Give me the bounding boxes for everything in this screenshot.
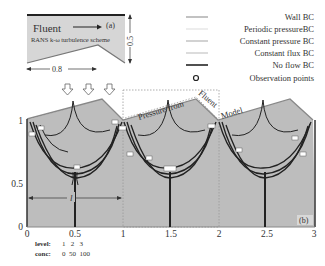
- contour-label: [164, 166, 176, 171]
- dim-arrow-up: [128, 14, 132, 19]
- x-tick: 2.5: [261, 229, 273, 239]
- x-tick: 0.5: [69, 229, 81, 239]
- dim-arrow-right: [92, 67, 97, 71]
- inset-title: Fluent: [33, 22, 61, 34]
- figure: Fluent (a) RANS k-ω turbulence scheme 0.…: [0, 0, 325, 266]
- legend-label: Periodic pressureBC: [244, 24, 314, 34]
- observation-point-icon: [194, 76, 199, 81]
- inset-panel: Fluent (a) RANS k-ω turbulence scheme 0.…: [26, 14, 135, 74]
- conc-values: 0 50 100: [62, 250, 91, 258]
- down-arrow-icon: [104, 84, 115, 95]
- legend-label: Constant pressure BC: [240, 36, 314, 46]
- level-label: level:: [35, 240, 51, 248]
- down-arrow-icon: [83, 84, 94, 95]
- contour-label: [38, 126, 44, 130]
- contour-label: [146, 156, 152, 160]
- x-axis: 0 0.5 1 1.5 2 2.5 3: [25, 229, 317, 239]
- legend-label: No flow BC: [272, 60, 314, 70]
- x-tick: 0: [25, 229, 30, 239]
- contour-label: [112, 120, 118, 124]
- x-tick: 1.5: [165, 229, 177, 239]
- inset-label: (a): [106, 21, 115, 30]
- conc-label: conc:: [35, 250, 51, 258]
- legend-label: Wall BC: [285, 12, 315, 22]
- legend-label: Constant flux BC: [254, 48, 314, 58]
- contour-label: [236, 148, 242, 152]
- contour-label: [292, 136, 298, 140]
- contour-label: [119, 126, 126, 130]
- contour-label: [300, 152, 306, 156]
- dim-arrow-down: [128, 59, 132, 64]
- y-axis: 0 0.5 1: [11, 116, 23, 232]
- flow-down-arrows: [62, 84, 115, 95]
- contour-label: [127, 152, 133, 156]
- x-tick: 2: [217, 229, 222, 239]
- contour-key: level: 1 2 3 conc: 0 50 100: [35, 240, 91, 258]
- y-tick: 0: [18, 222, 23, 232]
- x-tick: 3: [312, 229, 317, 239]
- contour-label: [29, 132, 35, 136]
- y-tick: 0.5: [11, 179, 23, 189]
- y-tick: 1: [18, 116, 23, 126]
- legend: Wall BC Periodic pressureBC Constant pre…: [186, 12, 314, 83]
- inset-width-label: 0.8: [52, 65, 62, 74]
- inset-height-label: 0.5: [126, 36, 135, 46]
- dim-arrow-left: [26, 67, 31, 71]
- contour-label: [74, 165, 80, 169]
- main-panel: Pressure from Fluent Model l (b): [27, 88, 315, 227]
- down-arrow-icon: [62, 84, 73, 95]
- level-values: 1 2 3: [62, 240, 84, 248]
- contour-label: [208, 124, 215, 128]
- panel-label: (b): [299, 216, 309, 225]
- x-tick: 1: [121, 229, 126, 239]
- legend-label: Observation points: [250, 73, 314, 83]
- inset-subtitle: RANS k-ω turbulence scheme: [31, 36, 110, 43]
